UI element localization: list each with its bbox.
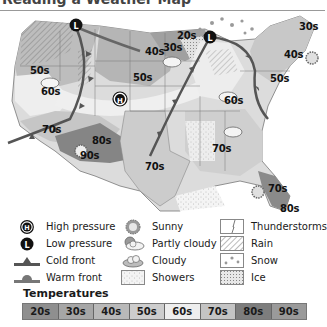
ice-icon [219, 270, 245, 285]
legend-item-snow: Snow [219, 252, 278, 269]
svg-text:L: L [24, 240, 29, 249]
temp-band-30s: 30s [59, 304, 95, 319]
temp-label: 30s [299, 21, 318, 32]
temp-label: 40s [284, 49, 303, 60]
legend-label: Showers [152, 272, 194, 283]
svg-text:H: H [117, 97, 123, 105]
legend-label: Partly cloudy [152, 238, 217, 249]
legend-item-thunderstorms: Thunderstorms [219, 218, 327, 235]
legend-label: Warm front [46, 272, 102, 283]
sunny-icon-northeast [306, 52, 318, 64]
temp-label: 50s [30, 65, 49, 76]
legend-label: Rain [251, 238, 273, 249]
temp-label: 70s [268, 183, 287, 194]
legend-label: Thunderstorms [251, 221, 327, 232]
low-pressure-marker-west: L [70, 19, 83, 32]
temp-label: 50s [270, 73, 289, 84]
legend-item-rain: Rain [219, 235, 273, 252]
legend-item-cloudy: Cloudy [120, 252, 186, 269]
legend-label: Sunny [152, 221, 183, 232]
svg-text:L: L [73, 22, 78, 31]
high-pressure-marker: H [113, 92, 127, 106]
temperature-scale: 20s 30s 40s 50s 60s 70s 80s 90s [22, 303, 307, 320]
legend-item-showers: Showers [120, 269, 194, 286]
temp-label: 80s [280, 203, 299, 214]
svg-text:H: H [24, 224, 29, 232]
sunny-icon-florida [252, 186, 264, 198]
temp-band-50s: 50s [130, 304, 166, 319]
low-pressure-marker-central: L [204, 31, 217, 44]
legend-item-high-pressure: H High pressure [14, 218, 115, 235]
temp-band-90s: 90s [272, 304, 307, 319]
temp-label: 70s [145, 161, 164, 172]
temp-label: 80s [92, 135, 111, 146]
temp-band-80s: 80s [236, 304, 272, 319]
temperatures-title: Temperatures [23, 287, 109, 300]
legend-label: Snow [251, 255, 278, 266]
legend-label: Low pressure [46, 238, 112, 249]
temp-label: 30s [163, 42, 182, 53]
cloudy-icon-north [163, 57, 181, 67]
temp-label: 40s [145, 46, 164, 57]
legend-item-ice: Ice [219, 269, 266, 286]
legend-item-low-pressure: L Low pressure [14, 235, 112, 252]
legend-item-cold-front: Cold front [14, 252, 95, 269]
legend-label: Cold front [46, 255, 95, 266]
temp-label: 20s [177, 30, 196, 41]
map-legend: H High pressure L Low pressure Cold fron… [0, 218, 325, 288]
svg-text:L: L [207, 34, 212, 43]
snow-icon [219, 253, 245, 268]
legend-label: Cloudy [152, 255, 186, 266]
temp-label: 70s [212, 143, 231, 154]
cold-front-icon [14, 253, 40, 268]
legend-item-sunny: Sunny [120, 218, 183, 235]
cloudy-icon-southeast [224, 127, 242, 137]
sunny-icon [120, 219, 146, 234]
temp-label: 60s [41, 86, 60, 97]
page-title: Reading a Weather Map [2, 0, 191, 7]
temp-band-40s: 40s [94, 304, 130, 319]
warm-front-icon [14, 270, 40, 285]
high-pressure-icon: H [14, 219, 40, 234]
temp-label: 70s [42, 124, 61, 135]
thunderstorms-icon [219, 219, 245, 234]
weather-map: H L L 50s 60s 70s 80s 90s 40s 50s 20s 30… [0, 11, 325, 216]
temp-band-60s: 60s [165, 304, 201, 319]
temp-band-20s: 20s [23, 304, 59, 319]
temp-label: 50s [133, 72, 152, 83]
low-pressure-icon: L [14, 236, 40, 251]
temp-band-70s: 70s [201, 304, 237, 319]
legend-label: High pressure [46, 221, 115, 232]
legend-item-partly-cloudy: Partly cloudy [120, 235, 217, 252]
legend-item-warm-front: Warm front [14, 269, 102, 286]
temp-label: 90s [80, 150, 99, 161]
showers-icon [120, 270, 146, 285]
cloudy-icon [120, 253, 146, 268]
rain-icon [219, 236, 245, 251]
temp-label: 60s [224, 95, 243, 106]
legend-label: Ice [251, 272, 266, 283]
partly-cloudy-icon [120, 236, 146, 251]
